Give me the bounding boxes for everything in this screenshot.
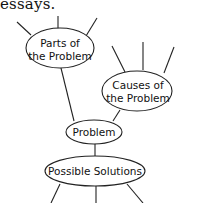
parts-branch-3 xyxy=(86,18,97,36)
node-causes-of-the-problem: Causes of the Problem xyxy=(102,71,172,111)
causes-label-line2: the Problem xyxy=(106,92,170,104)
causes-to-problem-line xyxy=(113,110,120,121)
causes-branch-1 xyxy=(112,46,125,72)
solutions-branch-1 xyxy=(51,184,60,203)
parts-branch-1 xyxy=(17,22,31,35)
causes-ellipse xyxy=(102,71,172,111)
node-parts-of-the-problem: Parts of the Problem xyxy=(26,28,94,68)
parts-label-line1: Parts of xyxy=(40,37,80,49)
node-possible-solutions: Possible Solutions xyxy=(45,156,145,186)
mind-map-diagram: Parts of the Problem Causes of the Probl… xyxy=(0,0,203,203)
solutions-branch-3 xyxy=(127,184,143,203)
parts-to-problem-line xyxy=(61,68,74,121)
solutions-label: Possible Solutions xyxy=(48,165,142,177)
causes-branch-3 xyxy=(164,47,174,73)
problem-label: Problem xyxy=(73,126,116,138)
node-problem: Problem xyxy=(66,120,122,144)
causes-label-line1: Causes of xyxy=(112,79,164,91)
parts-label-line2: the Problem xyxy=(28,50,92,62)
